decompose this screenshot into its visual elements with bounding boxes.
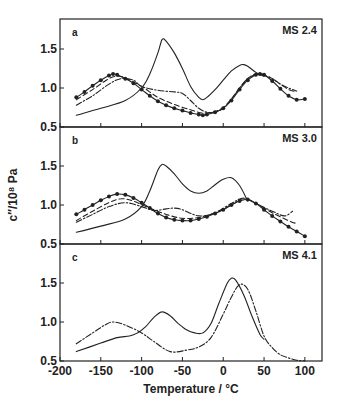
- y-axis-label: c″/10⁸ Pa: [6, 168, 20, 221]
- data-marker: [131, 196, 135, 200]
- x-axis: -200-150-100-50050100: [48, 364, 315, 378]
- y-tick-label: 0.5: [40, 237, 57, 251]
- data-marker: [140, 201, 144, 205]
- chart: 0.51.01.5aMS 2.40.51.01.5bMS 3.00.51.01.…: [0, 0, 342, 413]
- data-marker: [115, 192, 119, 196]
- data-marker: [180, 219, 184, 223]
- data-marker: [295, 98, 299, 102]
- x-axis-label: Temperature / °C: [143, 382, 239, 396]
- x-tick-label: -100: [130, 364, 154, 378]
- series-dash-dot: [76, 75, 296, 113]
- data-marker: [74, 212, 78, 216]
- series-dashed: [76, 74, 296, 113]
- y-tick-label: 0.5: [40, 120, 57, 134]
- data-marker: [164, 103, 168, 107]
- data-marker: [295, 230, 299, 234]
- panel-letter: c: [72, 252, 78, 263]
- x-tick-label: -150: [89, 364, 113, 378]
- data-marker: [99, 198, 103, 202]
- y-tick-label: 1.5: [40, 42, 57, 56]
- x-tick-label: 50: [257, 364, 271, 378]
- y-tick-label: 1.0: [40, 315, 57, 329]
- y-tick-label: 1.0: [40, 198, 57, 212]
- data-marker: [172, 218, 176, 222]
- data-marker: [278, 87, 282, 91]
- data-marker: [172, 106, 176, 110]
- panel-letter: a: [72, 27, 78, 38]
- series-solid: [76, 39, 264, 116]
- data-marker: [82, 208, 86, 212]
- data-marker: [189, 219, 193, 223]
- panel-letter: b: [72, 135, 78, 146]
- x-tick-label: 0: [220, 364, 227, 378]
- series-dash-dot: [76, 284, 305, 361]
- data-marker: [107, 194, 111, 198]
- panel-sample-name: MS 4.1: [282, 249, 317, 261]
- chart-panels: 0.51.01.5aMS 2.40.51.01.5bMS 3.00.51.01.…: [40, 19, 322, 368]
- y-tick-label: 1.5: [40, 159, 57, 173]
- panel-c: 0.51.01.5cMS 4.1: [40, 244, 322, 368]
- data-marker: [180, 109, 184, 113]
- data-marker: [148, 94, 152, 98]
- data-marker: [107, 74, 111, 78]
- data-marker: [287, 225, 291, 229]
- data-marker: [278, 219, 282, 223]
- data-marker: [164, 215, 168, 219]
- data-marker: [303, 234, 307, 238]
- series-solid: [76, 164, 247, 232]
- x-tick-label: -200: [48, 364, 72, 378]
- x-tick-label: 100: [295, 364, 315, 378]
- panel-a: 0.51.01.5aMS 2.4: [40, 19, 322, 134]
- data-marker: [140, 88, 144, 92]
- data-marker: [91, 84, 95, 88]
- data-marker: [287, 94, 291, 98]
- data-marker: [303, 97, 307, 101]
- panel-b: 0.51.01.5bMS 3.0: [40, 127, 322, 251]
- data-marker: [123, 193, 127, 197]
- data-marker: [156, 99, 160, 103]
- data-marker: [111, 72, 115, 76]
- data-marker: [91, 203, 95, 207]
- data-marker: [99, 78, 103, 82]
- panel-sample-name: MS 2.4: [282, 24, 318, 36]
- panel-sample-name: MS 3.0: [282, 132, 317, 144]
- y-tick-label: 1.5: [40, 276, 57, 290]
- data-marker: [270, 214, 274, 218]
- y-tick-label: 1.0: [40, 81, 57, 95]
- data-marker: [189, 111, 193, 115]
- x-tick-label: -50: [174, 364, 192, 378]
- data-marker: [201, 113, 205, 117]
